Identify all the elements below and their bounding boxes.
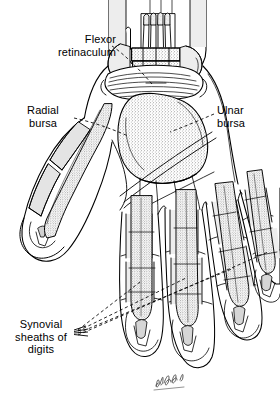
finger-index: [120, 196, 164, 357]
label-synovial-sheaths-of-digits: Synovial sheaths of digits: [4, 318, 78, 356]
label-radial-bursa: Radial bursa: [8, 104, 78, 129]
label-ulnar-bursa: Ulnar bursa: [217, 104, 277, 129]
anatomy-figure: Flexor retinaculum Radial bursa Ulnar bu…: [0, 0, 280, 404]
ulnar-bursa: [118, 93, 208, 183]
cut-flexor-tendons: [126, 0, 181, 73]
label-flexor-retinaculum: Flexor retinaculum: [14, 33, 116, 58]
artist-signature: [154, 374, 184, 390]
